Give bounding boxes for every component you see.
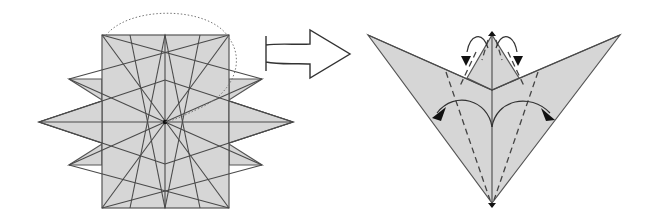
spike-left-top [69, 79, 102, 100]
spike-right-bottom [229, 144, 262, 165]
bottom-mark [488, 203, 496, 208]
folded-figure [368, 31, 620, 208]
apex-mark [488, 31, 496, 36]
star-figure [39, 13, 293, 208]
spike-left-bottom [69, 144, 102, 165]
spike-right-top [229, 79, 262, 100]
step-arrow-icon [266, 30, 350, 78]
star-crease-pattern [0, 0, 645, 220]
origami-diagram [0, 0, 645, 220]
